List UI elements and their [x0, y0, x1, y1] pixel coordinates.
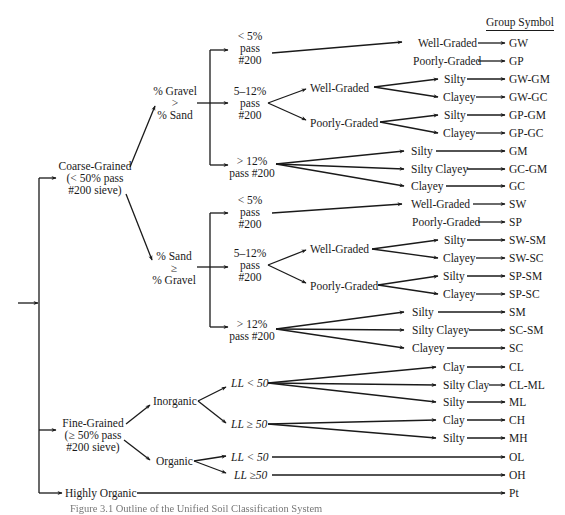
fine-leaf-clay-high: Clay — [443, 414, 465, 426]
coarse-line1: Coarse-Grained — [55, 160, 135, 172]
gravel-leaf-silty-poor: Silty — [444, 109, 466, 121]
coarse-line2: (< 50% pass — [55, 172, 135, 184]
gravel-gt12-line1: > 12% — [226, 155, 278, 167]
fine-leaf-clay-low: Clay — [443, 361, 465, 373]
gravel-branch-node: % Gravel > % Sand — [150, 85, 200, 121]
fine-leaf-silty-low: Silty — [443, 396, 465, 408]
coarse-grained-node: Coarse-Grained (< 50% pass #200 sieve) — [55, 160, 135, 196]
sand-mid-line1: 5–12% — [228, 247, 272, 259]
sand-leaf-silty-clayey: Silty Clayey — [412, 324, 469, 336]
sand-leaf-silty-well: Silty — [444, 234, 466, 246]
sand-gt12-node: > 12% pass #200 — [226, 318, 278, 342]
uscs-flowchart: Coarse-Grained (< 50% pass #200 sieve) F… — [0, 0, 565, 515]
symbol-gp-gm: GP-GM — [509, 109, 546, 121]
symbol-gw-gm: GW-GM — [509, 73, 550, 85]
gravel-mid-line3: #200 — [228, 109, 272, 121]
symbol-ch: CH — [509, 414, 525, 426]
symbol-ml: ML — [509, 396, 526, 408]
organic-ll-ge50: LL ≥50 — [234, 469, 267, 481]
fine-leaf-silty-clay: Silty Clay — [443, 379, 489, 391]
gravel-mid-line1: 5–12% — [228, 85, 272, 97]
sand-leaf-clayey-poor: Clayey — [443, 288, 476, 300]
sand-leaf-silty-poor: Silty — [443, 270, 465, 282]
gravel-mid-well-graded: Well-Graded — [310, 82, 369, 94]
symbol-mh: MH — [509, 432, 528, 444]
organic-ll-lt50: LL < 50 — [231, 451, 269, 463]
symbol-sc-sm: SC-SM — [509, 324, 544, 336]
sand-lt5-line3: #200 — [230, 218, 270, 230]
sand-branch-line3: % Gravel — [148, 274, 200, 286]
sand-gt12-line1: > 12% — [226, 318, 278, 330]
figure-caption: Figure 3.1 Outline of the Unified Soil C… — [70, 503, 322, 514]
gravel-leaf-clayey-well: Clayey — [443, 91, 476, 103]
gravel-lt5-line2: pass — [230, 42, 270, 54]
organic-node: Organic — [156, 455, 193, 467]
sand-mid-line2: pass — [228, 259, 272, 271]
highly-organic-node: Highly Organic — [65, 487, 137, 499]
symbol-gm: GM — [509, 145, 528, 157]
symbol-sp-sc: SP-SC — [509, 288, 540, 300]
gravel-gt12-line2: pass #200 — [226, 167, 278, 179]
gravel-mid-poorly-graded: Poorly-Graded — [310, 117, 378, 129]
sand-branch-line2: ≥ — [148, 262, 200, 274]
symbol-cl-ml: CL-ML — [509, 379, 545, 391]
gravel-leaf-well-graded: Well-Graded — [418, 37, 477, 49]
fine-line3: #200 sieve) — [57, 441, 129, 453]
fine-line2: (≥ 50% pass — [57, 429, 129, 441]
symbol-gw-gc: GW-GC — [509, 91, 547, 103]
gravel-branch-line3: % Sand — [150, 109, 200, 121]
symbol-gp: GP — [509, 55, 524, 67]
symbol-sp-sm: SP-SM — [509, 270, 542, 282]
gravel-mid-node: 5–12% pass #200 — [228, 85, 272, 121]
fine-line1: Fine-Grained — [57, 417, 129, 429]
symbol-sc: SC — [509, 342, 523, 354]
gravel-lt5-node: < 5% pass #200 — [230, 30, 270, 66]
fine-grained-node: Fine-Grained (≥ 50% pass #200 sieve) — [57, 417, 129, 453]
sand-mid-poorly-graded: Poorly-Graded — [310, 280, 378, 292]
sand-lt5-node: < 5% pass #200 — [230, 194, 270, 230]
sand-leaf-clayey-well: Clayey — [443, 252, 476, 264]
sand-branch-line1: % Sand — [148, 250, 200, 262]
symbol-sm: SM — [509, 306, 526, 318]
symbol-gp-gc: GP-GC — [509, 127, 544, 139]
sand-branch-node: % Sand ≥ % Gravel — [148, 250, 200, 286]
gravel-mid-line2: pass — [228, 97, 272, 109]
group-symbol-header: Group Symbol — [486, 16, 554, 31]
symbol-sw-sm: SW-SM — [509, 234, 546, 246]
symbol-oh: OH — [509, 469, 526, 481]
sand-leaf-clayey: Clayey — [412, 342, 445, 354]
symbol-gc-gm: GC-GM — [509, 163, 547, 175]
gravel-leaf-silty-clayey: Silty Clayey — [411, 163, 468, 175]
symbol-gc: GC — [509, 180, 525, 192]
gravel-lt5-line3: #200 — [230, 54, 270, 66]
sand-lt5-line1: < 5% — [230, 194, 270, 206]
sand-mid-well-graded: Well-Graded — [310, 243, 369, 255]
sand-leaf-well-graded: Well-Graded — [411, 198, 470, 210]
symbol-sw-sc: SW-SC — [509, 252, 544, 264]
symbol-ol: OL — [509, 451, 524, 463]
gravel-leaf-silty-well: Silty — [444, 73, 466, 85]
symbol-gw: GW — [509, 37, 528, 49]
gravel-leaf-clayey: Clayey — [411, 180, 444, 192]
fine-leaf-silty-high: Silty — [443, 432, 465, 444]
inorganic-ll-ge50: LL ≥ 50 — [231, 418, 267, 430]
coarse-line3: #200 sieve) — [55, 184, 135, 196]
gravel-branch-line1: % Gravel — [150, 85, 200, 97]
sand-leaf-poorly-graded: Poorly-Graded — [412, 216, 480, 228]
gravel-gt12-node: > 12% pass #200 — [226, 155, 278, 179]
inorganic-ll-lt50: LL < 50 — [231, 377, 269, 389]
sand-mid-node: 5–12% pass #200 — [228, 247, 272, 283]
gravel-branch-line2: > — [150, 97, 200, 109]
symbol-pt: Pt — [509, 487, 519, 499]
gravel-lt5-line1: < 5% — [230, 30, 270, 42]
sand-lt5-line2: pass — [230, 206, 270, 218]
inorganic-node: Inorganic — [153, 395, 197, 407]
sand-leaf-silty: Silty — [412, 306, 434, 318]
gravel-leaf-silty: Silty — [411, 145, 433, 157]
gravel-leaf-poorly-graded: Poorly-Graded — [413, 55, 481, 67]
symbol-cl: CL — [509, 361, 524, 373]
symbol-sp: SP — [509, 216, 522, 228]
sand-gt12-line2: pass #200 — [226, 330, 278, 342]
gravel-leaf-clayey-poor: Clayey — [443, 127, 476, 139]
symbol-sw: SW — [509, 198, 526, 210]
